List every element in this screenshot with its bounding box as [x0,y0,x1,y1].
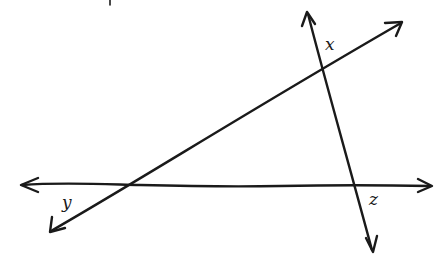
angle-label-y: y [61,192,72,212]
diagonal-line [50,22,402,232]
angle-label-z: z [368,189,379,209]
steep-line [302,12,377,252]
angle-label-x: x [325,34,335,54]
geometry-diagram: x y z [0,0,445,263]
